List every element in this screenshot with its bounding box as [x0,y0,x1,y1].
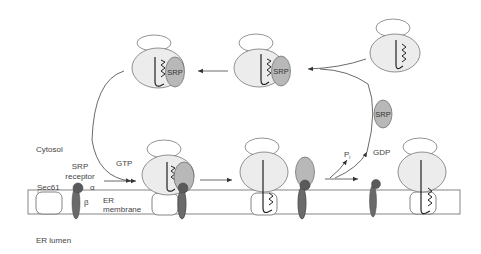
gdp-label: GDP [373,148,390,157]
er-membrane [28,190,460,214]
srp-cycle-diagram: SRP SRP SRP [0,0,481,254]
beta-subunit-label: β [84,198,89,207]
srp-receptor-label-line2: receptor [65,172,95,181]
ribosome-with-signal-sequence [370,19,420,72]
gtp-label: GTP [116,159,132,168]
sec61-label: Sec61 [37,183,60,192]
er-membrane-label-line1: ER [103,196,114,205]
alpha-subunit-label: α [90,183,95,192]
cytosol-label: Cytosol [36,145,63,154]
srp-label: SRP [375,110,390,119]
er-membrane-label-line2: membrane [103,205,142,214]
ribosome-srp-complex: SRP [234,34,291,87]
ribosome-srp-complex: SRP [132,35,185,88]
pi-label: Pi [344,150,350,160]
cycle-arrows [92,59,373,181]
srp-label: SRP [167,68,182,77]
er-lumen-label: ER lumen [36,236,71,245]
free-srp: SRP [374,100,392,128]
srp-receptor-label-line1: SRP [72,162,88,171]
sec61-channel [152,193,178,215]
pi-label-subscript: i [349,154,350,160]
srp-label: SRP [273,67,288,76]
sec61-channel [36,192,62,214]
